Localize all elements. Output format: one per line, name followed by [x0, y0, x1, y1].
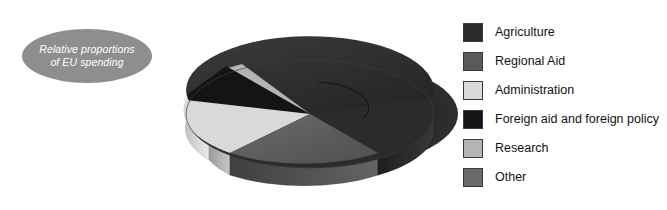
legend-swatch-icon: [463, 168, 483, 187]
legend-label: Regional Aid: [495, 55, 565, 68]
caption-line-1: Relative proportions: [39, 43, 134, 56]
legend-item-regional-aid[interactable]: Regional Aid: [463, 47, 663, 76]
legend-label: Foreign aid and foreign policy: [495, 113, 659, 126]
legend: Agriculture Regional Aid Administration …: [463, 18, 663, 192]
legend-item-other[interactable]: Other: [463, 163, 663, 192]
legend-swatch-icon: [463, 110, 483, 129]
legend-item-agriculture[interactable]: Agriculture: [463, 18, 663, 47]
legend-item-administration[interactable]: Administration: [463, 76, 663, 105]
caption-line-2: of EU spending: [50, 56, 123, 69]
legend-item-foreign-aid-and-foreign-policy[interactable]: Foreign aid and foreign policy: [463, 105, 663, 134]
pie-chart-figure: Relative proportions of EU spending: [0, 0, 667, 210]
pie-svg: [168, 22, 460, 192]
legend-swatch-icon: [463, 52, 483, 71]
legend-label: Research: [495, 142, 549, 155]
legend-swatch-icon: [463, 81, 483, 100]
legend-label: Agriculture: [495, 26, 555, 39]
legend-swatch-icon: [463, 23, 483, 42]
legend-label: Administration: [495, 84, 574, 97]
legend-label: Other: [495, 171, 526, 184]
legend-item-research[interactable]: Research: [463, 134, 663, 163]
legend-swatch-icon: [463, 139, 483, 158]
pie-chart-graphic: [168, 22, 460, 192]
caption-bubble: Relative proportions of EU spending: [22, 29, 152, 83]
